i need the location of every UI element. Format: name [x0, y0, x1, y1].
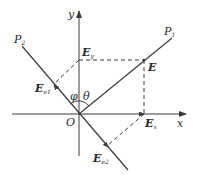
phi-label: φ	[70, 91, 78, 102]
ey-label: Ey	[82, 47, 94, 59]
p2-line	[22, 46, 128, 170]
theta-label: θ	[83, 91, 90, 102]
y-axis-label: y	[68, 9, 74, 20]
ee2-label: Ee2	[93, 153, 109, 165]
ey-to-ee1-dashed	[54, 60, 79, 84]
e-label: E	[148, 62, 156, 73]
e-point	[143, 59, 145, 61]
ex-label: Ex	[145, 118, 157, 130]
p1-label: P1	[164, 26, 175, 38]
ex-to-ee2-dashed	[107, 114, 144, 146]
diagram-canvas: y x O P1 P2 E Ey Ex Ee1 Ee2 φ θ	[0, 0, 199, 181]
origin-label: O	[66, 117, 75, 128]
p2-label: P2	[14, 34, 25, 46]
x-axis-label: x	[177, 118, 183, 129]
ee1-label: Ee1	[35, 83, 51, 95]
